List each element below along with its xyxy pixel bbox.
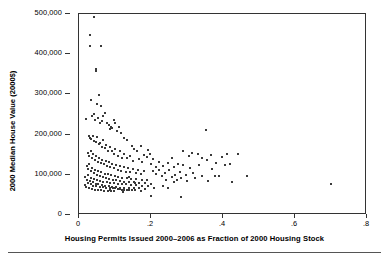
scatter-point bbox=[214, 175, 216, 177]
scatter-point bbox=[85, 186, 87, 188]
y-tick-mark bbox=[65, 93, 70, 94]
scatter-point bbox=[98, 157, 100, 159]
scatter-point bbox=[152, 158, 154, 160]
scatter-point bbox=[111, 150, 113, 152]
scatter-point bbox=[210, 154, 212, 156]
scatter-point bbox=[102, 181, 104, 183]
scatter-point bbox=[96, 103, 98, 105]
plot-area bbox=[78, 13, 366, 214]
scatter-point bbox=[89, 45, 91, 47]
scatter-point bbox=[113, 119, 115, 121]
scatter-point bbox=[117, 155, 119, 157]
scatter-point bbox=[162, 165, 164, 167]
scatter-point bbox=[97, 170, 99, 172]
scatter-point bbox=[246, 175, 248, 177]
scatter-point bbox=[104, 173, 106, 175]
scatter-point bbox=[109, 182, 111, 184]
scatter-point bbox=[95, 70, 97, 72]
scatter-point bbox=[99, 142, 101, 144]
scatter-point bbox=[128, 176, 130, 178]
scatter-point bbox=[229, 163, 231, 165]
scatter-point bbox=[105, 160, 107, 162]
scatter-point bbox=[107, 150, 109, 152]
y-tick-mark bbox=[65, 53, 70, 54]
scatter-point bbox=[173, 181, 175, 183]
scatter-point bbox=[93, 16, 95, 18]
scatter-point bbox=[98, 94, 100, 96]
scatter-point bbox=[107, 173, 109, 175]
scatter-point bbox=[116, 130, 118, 132]
scatter-point bbox=[86, 165, 88, 167]
scatter-point bbox=[141, 185, 143, 187]
scatter-point bbox=[93, 178, 95, 180]
scatter-point bbox=[205, 129, 207, 131]
scatter-point bbox=[132, 160, 134, 162]
scatter-point bbox=[100, 162, 102, 164]
scatter-point bbox=[226, 153, 228, 155]
scatter-point bbox=[114, 122, 116, 124]
scatter-point bbox=[218, 175, 220, 177]
scatter-point bbox=[125, 183, 127, 185]
scatter-point bbox=[197, 153, 199, 155]
scatter-point bbox=[131, 189, 133, 191]
scatter-point bbox=[103, 190, 105, 192]
scatter-point bbox=[101, 120, 103, 122]
scatter-point bbox=[129, 171, 131, 173]
scatter-point bbox=[182, 164, 184, 166]
scatter-point bbox=[102, 176, 104, 178]
scatter-point bbox=[128, 189, 130, 191]
scatter-point bbox=[143, 170, 145, 172]
x-tick-mark bbox=[366, 214, 367, 218]
scatter-point bbox=[100, 171, 102, 173]
x-axis: Housing Permits Issued 2000–2006 as Frac… bbox=[0, 214, 389, 261]
scatter-point bbox=[109, 166, 111, 168]
scatter-point bbox=[126, 157, 128, 159]
scatter-point bbox=[141, 179, 143, 181]
scatter-point bbox=[119, 150, 121, 152]
scatter-point bbox=[93, 113, 95, 115]
scatter-point bbox=[91, 188, 93, 190]
scatter-point bbox=[106, 181, 108, 183]
scatter-point bbox=[117, 169, 119, 171]
scatter-point bbox=[146, 156, 148, 158]
scatter-point bbox=[89, 34, 91, 36]
scatter-point bbox=[149, 153, 151, 155]
y-tick-label: 400,000 bbox=[35, 49, 62, 56]
scatter-point bbox=[91, 115, 93, 117]
scatter-point bbox=[129, 155, 131, 157]
scatter-point bbox=[330, 183, 332, 185]
scatter-point bbox=[113, 182, 115, 184]
scatter-point bbox=[87, 174, 89, 176]
scatter-point bbox=[122, 191, 124, 193]
scatter-point bbox=[134, 189, 136, 191]
scatter-point bbox=[174, 174, 176, 176]
scatter-point bbox=[104, 147, 106, 149]
scatter-point bbox=[99, 186, 101, 188]
scatter-point bbox=[121, 183, 123, 185]
scatter-point bbox=[109, 189, 111, 191]
scatter-point bbox=[87, 152, 89, 154]
scatter-point bbox=[102, 139, 104, 141]
scatter-point bbox=[109, 146, 111, 148]
scatter-point bbox=[95, 68, 97, 70]
scatter-point bbox=[152, 170, 154, 172]
scatter-point bbox=[153, 187, 155, 189]
scatter-point bbox=[168, 169, 170, 171]
scatter-point bbox=[133, 148, 135, 150]
scatter-point bbox=[171, 176, 173, 178]
scatter-point bbox=[119, 180, 121, 182]
scatter-point bbox=[85, 118, 87, 120]
scatter-point bbox=[215, 162, 217, 164]
scatter-point bbox=[167, 162, 169, 164]
scatter-point bbox=[141, 161, 143, 163]
y-tick-label: 100,000 bbox=[35, 170, 62, 177]
scatter-point bbox=[121, 177, 123, 179]
scatter-point bbox=[165, 179, 167, 181]
scatter-point bbox=[103, 163, 105, 165]
scatter-point bbox=[198, 164, 200, 166]
x-tick-label: .2 bbox=[147, 220, 153, 227]
scatter-point bbox=[114, 175, 116, 177]
scatter-point bbox=[224, 164, 226, 166]
scatter-point bbox=[99, 180, 101, 182]
scatter-point bbox=[188, 155, 190, 157]
